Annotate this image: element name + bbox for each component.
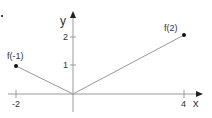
x-tick-label-4: 4	[181, 99, 186, 109]
stray-mark	[1, 15, 3, 17]
x-axis-label: x	[193, 97, 199, 109]
x-tick-label-neg2: -2	[12, 99, 20, 109]
point-f-2	[182, 33, 186, 37]
segment-left	[16, 66, 73, 94]
point-label-f-2: f(2)	[164, 23, 178, 33]
point-label-f-neg1: f(-1)	[7, 51, 24, 61]
y-axis-label: y	[60, 14, 66, 28]
segment-right	[73, 35, 184, 94]
y-tick-label-2: 2	[63, 32, 68, 42]
function-diagram: -2 4 1 2 x y f(-1) f(2)	[0, 0, 212, 118]
y-axis-arrow-icon	[70, 11, 76, 18]
point-f-neg1	[14, 64, 18, 68]
y-tick-label-1: 1	[63, 60, 68, 70]
